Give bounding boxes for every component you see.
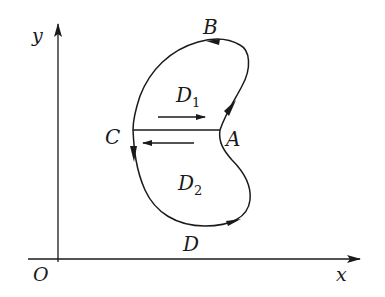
origin-label: O bbox=[33, 263, 49, 285]
region-D2-subscript: 2 bbox=[194, 183, 202, 198]
arrow-near-D-right bbox=[226, 219, 241, 226]
curve-arrows bbox=[130, 39, 241, 226]
region-D1-letter: D bbox=[175, 83, 192, 107]
label-C: C bbox=[105, 125, 120, 149]
arrow-near-A-up bbox=[224, 100, 236, 116]
region-diagram: x y O B C A D D1 D2 bbox=[0, 0, 385, 297]
y-axis-label: y bbox=[31, 24, 43, 46]
region-labels: D1 D2 bbox=[175, 83, 202, 198]
region-D1-label: D1 bbox=[175, 83, 200, 110]
region-D1-subscript: 1 bbox=[192, 95, 200, 110]
x-axis-label: x bbox=[336, 263, 347, 285]
region-D2-letter: D bbox=[177, 171, 194, 195]
label-D: D bbox=[182, 232, 199, 256]
region-D2-label: D2 bbox=[177, 171, 202, 198]
label-B: B bbox=[202, 15, 218, 39]
label-A: A bbox=[224, 127, 240, 151]
